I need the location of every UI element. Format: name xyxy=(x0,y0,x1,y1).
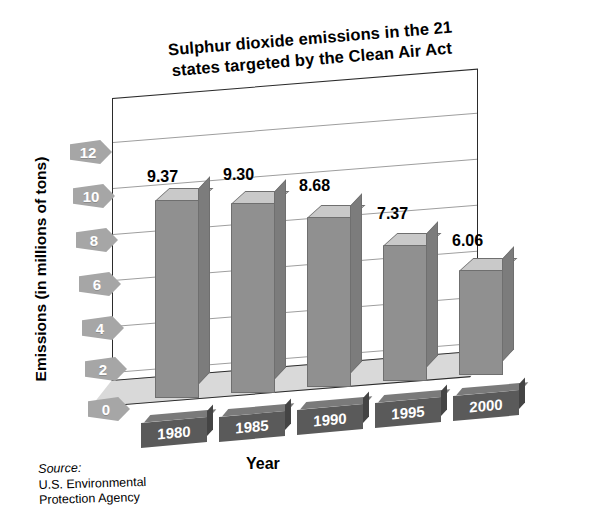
x-axis-title: Year xyxy=(246,455,280,473)
bar-1990 xyxy=(307,217,351,387)
value-label-1995: 7.37 xyxy=(377,205,408,223)
bar-1995 xyxy=(383,245,427,381)
bar-1985 xyxy=(231,203,275,393)
bar-side-face-1990 xyxy=(350,193,362,374)
chart-canvas: Sulphur dioxide emissions in the 21 stat… xyxy=(0,0,589,525)
value-label-2000: 6.06 xyxy=(452,232,483,250)
value-label-1985: 9.30 xyxy=(223,166,254,184)
source-line-2: Protection Agency xyxy=(39,490,147,509)
source-note: Source: U.S. Environmental Protection Ag… xyxy=(38,459,147,508)
x-tick-label-1985: 1985 xyxy=(235,417,268,437)
x-tick-label-1995: 1995 xyxy=(391,403,424,423)
bars-group xyxy=(0,0,589,525)
value-label-1990: 8.68 xyxy=(299,177,330,195)
bar-2000 xyxy=(459,270,503,375)
x-tick-label-2000: 2000 xyxy=(469,396,502,416)
x-tick-label-1990: 1990 xyxy=(313,410,346,430)
value-label-1980: 9.37 xyxy=(147,168,178,186)
bar-side-face-1995 xyxy=(426,221,438,368)
bar-1980 xyxy=(155,200,199,398)
bar-side-face-1985 xyxy=(274,179,286,380)
x-tick-label-1980: 1980 xyxy=(157,423,190,443)
bar-side-face-2000 xyxy=(502,246,514,362)
bar-side-face-1980 xyxy=(198,176,210,385)
